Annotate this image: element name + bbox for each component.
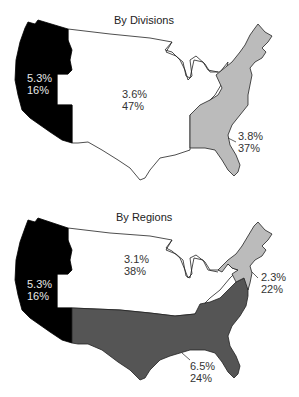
west-division-label: 5.3% 16%	[27, 72, 52, 96]
central-division-label: 3.6% 47%	[122, 88, 147, 112]
east-division-label: 3.8% 37%	[238, 130, 263, 154]
south-region-label: 6.5% 24%	[190, 360, 215, 384]
northeast-region-label: 2.3% 22%	[261, 271, 286, 295]
regions-map-panel: By Regions 5.3% 16% 3.1% 38% 2.3% 22% 6.…	[0, 198, 299, 397]
divisions-map-panel: …growth by region… By Divisions 5.3% 16%…	[0, 0, 299, 200]
south-label-pointer	[182, 353, 190, 360]
west-region-label: 5.3% 16%	[27, 278, 52, 302]
midwest-region-label: 3.1% 38%	[124, 253, 149, 277]
northeast-label-pointer	[252, 272, 258, 278]
divisions-map-graphic	[0, 0, 299, 200]
